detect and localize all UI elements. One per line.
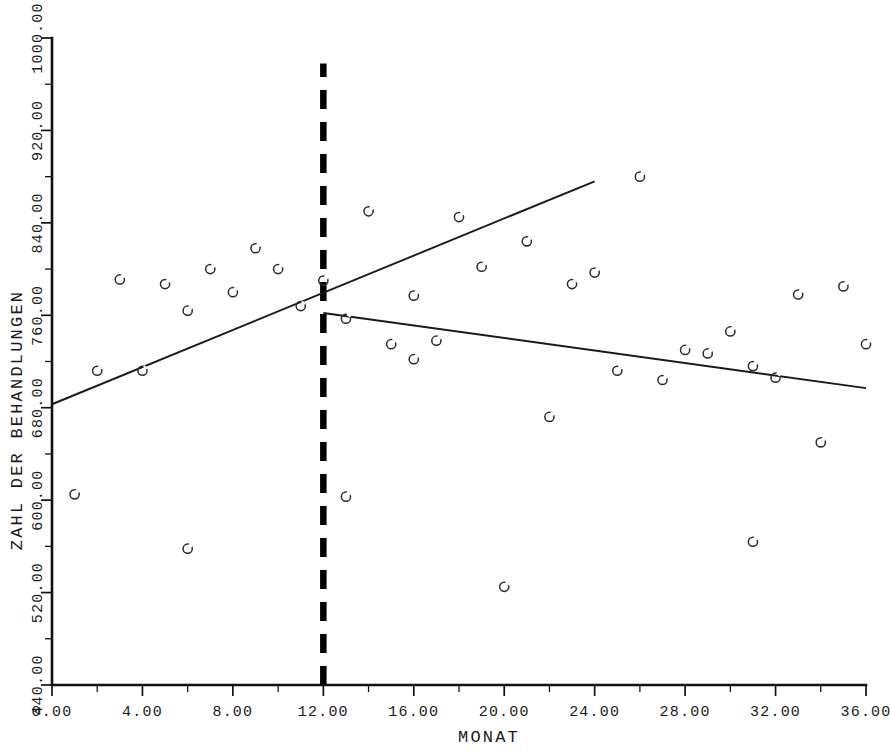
marker-gap — [483, 262, 486, 265]
marker-gap — [189, 306, 192, 309]
data-point-marker — [590, 268, 599, 277]
y-tick-label: 520.00 — [30, 562, 47, 623]
data-point-marker — [228, 288, 237, 297]
marker-gap — [392, 340, 395, 343]
data-point-marker — [613, 366, 622, 375]
data-point-marker — [341, 492, 350, 501]
marker-gap — [641, 172, 644, 175]
regression-lines-group — [52, 181, 866, 404]
data-point-marker — [251, 244, 260, 253]
marker-gap — [822, 438, 825, 441]
data-point-marker — [206, 264, 215, 273]
marker-gap — [799, 290, 802, 293]
y-tick-label: 600.00 — [30, 470, 47, 531]
data-point-marker — [726, 327, 735, 336]
marker-gap — [415, 355, 418, 358]
x-tick-label: 12.00 — [298, 704, 349, 721]
x-tick-label: 20.00 — [479, 704, 530, 721]
marker-gap — [166, 279, 169, 282]
data-point-marker — [703, 349, 712, 358]
marker-gap — [98, 366, 101, 369]
marker-gap — [144, 366, 147, 369]
y-axis-title: ZAHL DER BEHANDLUNGEN — [8, 290, 27, 550]
y-tick-label: 440.00 — [30, 654, 47, 715]
data-point-marker — [183, 544, 192, 553]
data-point-marker — [567, 279, 576, 288]
data-point-marker — [861, 340, 870, 349]
marker-gap — [664, 375, 667, 378]
marker-gap — [302, 301, 305, 304]
marker-gap — [686, 345, 689, 348]
axes-group — [52, 38, 866, 685]
y-tick-labels: 440.00520.00600.00680.00760.00840.00920.… — [30, 2, 47, 715]
post-intervention-regression — [323, 313, 866, 388]
data-point-marker — [364, 207, 373, 216]
marker-gap — [257, 244, 260, 247]
data-point-marker — [748, 362, 757, 371]
marker-gap — [460, 212, 463, 215]
marker-gap — [596, 268, 599, 271]
data-point-marker — [93, 366, 102, 375]
marker-gap — [347, 492, 350, 495]
y-tick-label: 840.00 — [30, 192, 47, 253]
x-tick-label: 4.00 — [122, 704, 163, 721]
data-point-marker — [409, 291, 418, 300]
data-point-marker — [477, 262, 486, 271]
x-axis-title: MONAT — [458, 728, 520, 747]
y-tick-label: 680.00 — [30, 377, 47, 438]
y-tick-label: 1000.00 — [30, 2, 47, 73]
data-point-marker — [748, 537, 757, 546]
data-point-marker — [658, 375, 667, 384]
y-tick-label: 920.00 — [30, 100, 47, 161]
marker-gap — [732, 327, 735, 330]
data-point-marker — [522, 237, 531, 246]
marker-gap — [279, 264, 282, 267]
data-point-marker — [387, 340, 396, 349]
marker-gap — [551, 412, 554, 415]
x-tick-label: 36.00 — [840, 704, 891, 721]
data-point-marker — [115, 275, 124, 284]
data-point-marker — [70, 490, 79, 499]
marker-gap — [325, 276, 328, 279]
marker-gap — [415, 291, 418, 294]
x-tick-label: 24.00 — [569, 704, 620, 721]
data-point-marker — [454, 212, 463, 221]
marker-gap — [234, 288, 237, 291]
data-point-marker — [816, 438, 825, 447]
data-point-marker — [681, 345, 690, 354]
marker-gap — [754, 537, 757, 540]
marker-gap — [505, 582, 508, 585]
axis-frame — [52, 38, 866, 685]
data-point-marker — [771, 373, 780, 382]
marker-gap — [121, 275, 124, 278]
marker-gap — [754, 362, 757, 365]
x-tick-label: 8.00 — [212, 704, 253, 721]
marker-gap — [76, 490, 79, 493]
data-point-marker — [183, 306, 192, 315]
x-tick-labels: 0.004.008.0012.0016.0020.0024.0028.0032.… — [32, 704, 891, 721]
x-tick-label: 28.00 — [660, 704, 711, 721]
pre-intervention-regression — [52, 181, 595, 404]
data-point-marker — [274, 264, 283, 273]
y-tick-label: 760.00 — [30, 285, 47, 346]
data-point-marker — [839, 282, 848, 291]
marker-gap — [438, 336, 441, 339]
marker-gap — [573, 279, 576, 282]
scatter-plot-canvas: 0.004.008.0012.0016.0020.0024.0028.0032.… — [0, 0, 891, 754]
marker-gap — [845, 282, 848, 285]
tick-marks-group — [41, 38, 866, 696]
marker-gap — [211, 264, 214, 267]
data-point-marker — [500, 582, 509, 591]
x-tick-label: 16.00 — [388, 704, 439, 721]
data-point-marker — [794, 290, 803, 299]
data-point-marker — [432, 336, 441, 345]
marker-gap — [370, 207, 373, 210]
data-point-marker — [635, 172, 644, 181]
marker-gap — [618, 366, 621, 369]
data-point-marker — [545, 412, 554, 421]
marker-gap — [709, 349, 712, 352]
data-point-marker — [409, 355, 418, 364]
marker-gap — [528, 237, 531, 240]
x-tick-label: 32.00 — [750, 704, 801, 721]
marker-gap — [189, 544, 192, 547]
